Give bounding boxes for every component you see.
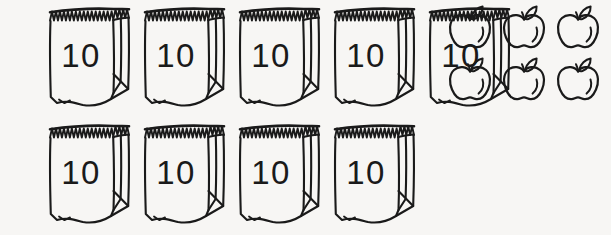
bag-label: 10 [251,37,291,74]
apple-1 [446,3,494,53]
worksheet-illustration: 1010101010 10101010 [0,0,611,235]
bag-3: 10 [235,4,325,114]
bag-label: 10 [251,154,291,191]
bag-label: 10 [156,154,196,191]
bag-7: 10 [140,121,230,231]
bag-6: 10 [45,121,135,231]
apple-4 [446,55,494,105]
bag-label: 10 [61,37,101,74]
bag-label: 10 [61,154,101,191]
bag-label: 10 [156,37,196,74]
bag-4: 10 [330,4,420,114]
bag-8: 10 [235,121,325,231]
apple-6 [554,55,602,105]
bag-1: 10 [45,4,135,114]
apple-5 [500,55,548,105]
apple-3 [554,3,602,53]
bag-2: 10 [140,4,230,114]
bag-9: 10 [330,121,420,231]
apple-2 [500,3,548,53]
bag-label: 10 [346,154,386,191]
bag-row-bottom: 10101010 [0,117,611,235]
bag-label: 10 [346,37,386,74]
loose-apple-grid [446,3,606,113]
